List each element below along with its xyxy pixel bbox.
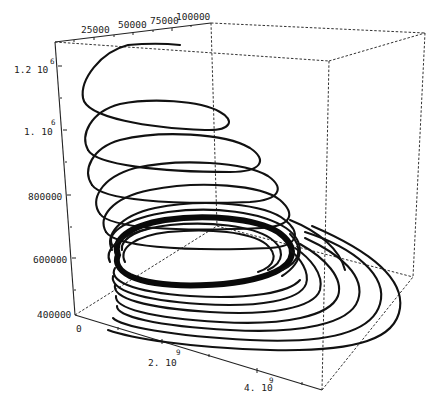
tick-label-1.2e6: 1.2 10 <box>14 64 49 75</box>
tick-label-0: 0 <box>76 323 82 334</box>
tick-label-100000: 100000 <box>176 11 211 22</box>
tick-label-1.2e6-exp: 6 <box>50 57 55 66</box>
tick-label-4e9-exp: 9 <box>269 376 274 385</box>
tick-label-75000: 75000 <box>150 15 179 26</box>
tick-label-800000: 800000 <box>28 191 63 202</box>
tick-label-1e6-exp: 6 <box>51 118 56 127</box>
tick-label-400000: 400000 <box>37 309 72 320</box>
tick-label-2e9: 2. 10 <box>148 357 177 368</box>
tick-label-600000: 600000 <box>33 254 68 265</box>
tick-label-25000: 25000 <box>81 24 110 35</box>
tick-label-1e6: 1. 10 <box>24 126 53 137</box>
tick-label-2e9-exp: 9 <box>176 348 181 357</box>
3d-plot: 25000 50000 75000 100000 1.2 10 6 1. 10 … <box>0 0 438 408</box>
tick-label-50000: 50000 <box>118 19 147 30</box>
